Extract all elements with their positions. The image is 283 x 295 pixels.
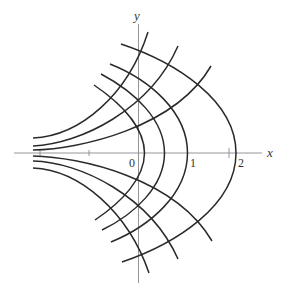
left-curve-lower-2 xyxy=(33,161,178,259)
tick-label-2: 2 xyxy=(238,156,244,170)
left-curve-lower-1 xyxy=(33,168,149,273)
diagram-canvas: y x 0 1 2 xyxy=(0,0,283,295)
coordinate-plot: y x 0 1 2 xyxy=(0,0,283,295)
y-axis-label: y xyxy=(132,8,140,23)
tick-label-0: 0 xyxy=(129,156,135,170)
x-axis-label: x xyxy=(266,145,273,160)
left-curve-upper-2 xyxy=(33,46,178,146)
tick-label-1: 1 xyxy=(190,156,196,170)
